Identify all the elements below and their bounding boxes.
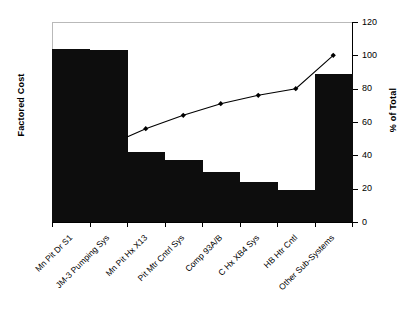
bar-1 (90, 50, 128, 222)
bar-4 (202, 172, 240, 222)
y-axis-right-tick-60 (353, 122, 358, 123)
y-axis-right-tick-label-80: 80 (362, 84, 372, 93)
pareto-chart: Factored Cost % of Total 020406080100120… (0, 0, 416, 325)
x-axis-tick-5 (240, 222, 241, 227)
y-axis-right-tick-120 (353, 22, 358, 23)
y-axis-right-tick-label-120: 120 (362, 18, 377, 27)
x-axis-tick-8 (352, 222, 353, 227)
y-axis-right-tick-label-100: 100 (362, 51, 377, 60)
y-axis-right-tick-label-0: 0 (362, 218, 367, 227)
y-axis-right-tick-label-20: 20 (362, 184, 372, 193)
bar-3 (165, 160, 203, 222)
y-axis-right-title: % of Total (388, 55, 398, 165)
bar-5 (240, 182, 278, 222)
bar-2 (127, 152, 165, 222)
y-axis-left-title: Factored Cost (16, 50, 26, 160)
bar-0 (52, 49, 90, 222)
x-axis-tick-0 (52, 222, 53, 227)
x-axis-tick-1 (90, 222, 91, 227)
y-axis-right-tick-80 (353, 89, 358, 90)
y-axis-right-tick-20 (353, 189, 358, 190)
x-axis-tick-7 (315, 222, 316, 227)
x-axis-tick-2 (127, 222, 128, 227)
y-axis-right-tick-40 (353, 155, 358, 156)
y-axis-right-tick-100 (353, 55, 358, 56)
bar-6 (277, 190, 315, 222)
x-axis-tick-4 (202, 222, 203, 227)
x-axis-tick-6 (277, 222, 278, 227)
y-axis-right-tick-0 (353, 222, 358, 223)
y-axis-right-tick-label-60: 60 (362, 118, 372, 127)
x-axis-tick-3 (165, 222, 166, 227)
bar-7 (315, 74, 353, 222)
y-axis-right-tick-label-40: 40 (362, 151, 372, 160)
